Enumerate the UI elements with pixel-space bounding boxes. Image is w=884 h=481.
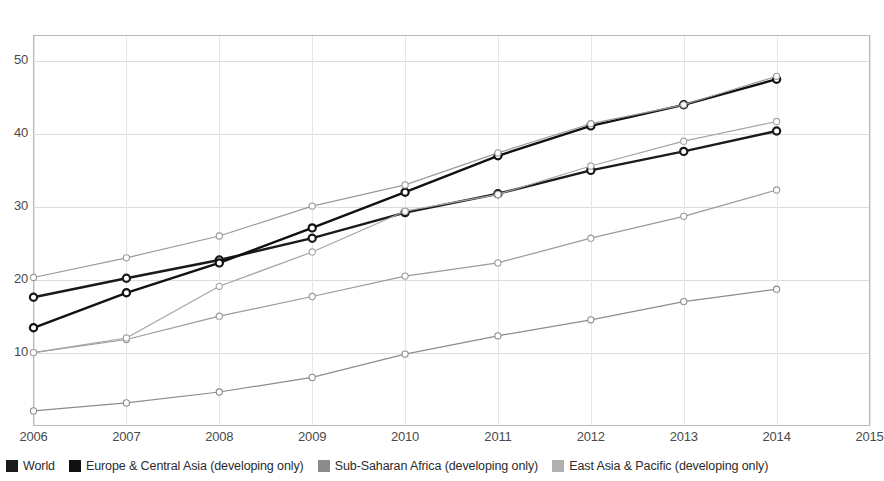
legend-item-europe-central-asia[interactable]: Europe & Central Asia (developing only) <box>69 459 304 473</box>
data-point[interactable] <box>309 293 315 299</box>
x-tick-label-2014: 2014 <box>754 429 800 444</box>
data-point[interactable] <box>30 350 36 356</box>
y-tick-label-40: 40 <box>2 125 28 140</box>
data-point[interactable] <box>495 260 501 266</box>
data-point[interactable] <box>681 102 687 108</box>
plot-frame <box>34 36 870 426</box>
x-tick-label-2010: 2010 <box>382 429 428 444</box>
legend-swatch-east-asia-pacific <box>552 460 564 472</box>
plot-area <box>0 0 884 481</box>
data-point[interactable] <box>495 333 501 339</box>
legend-label-sub-saharan-africa: Sub-Saharan Africa (developing only) <box>335 459 538 473</box>
data-point[interactable] <box>588 163 594 169</box>
data-point[interactable] <box>216 389 222 395</box>
legend-item-sub-saharan-africa[interactable]: Sub-Saharan Africa (developing only) <box>318 459 538 473</box>
x-tick-label-2015: 2015 <box>847 429 884 444</box>
data-point[interactable] <box>680 148 687 155</box>
data-point[interactable] <box>774 73 780 79</box>
data-point[interactable] <box>588 317 594 323</box>
y-tick-label-50: 50 <box>2 52 28 67</box>
legend-swatch-world <box>6 460 18 472</box>
x-tick-label-2009: 2009 <box>289 429 335 444</box>
data-point[interactable] <box>123 255 129 261</box>
data-point[interactable] <box>309 249 315 255</box>
data-point[interactable] <box>123 335 129 341</box>
data-point[interactable] <box>309 374 315 380</box>
data-point[interactable] <box>402 208 408 214</box>
data-point[interactable] <box>495 150 501 156</box>
data-point[interactable] <box>30 294 37 301</box>
data-point[interactable] <box>681 213 687 219</box>
legend-label-europe-central-asia: Europe & Central Asia (developing only) <box>86 459 304 473</box>
x-tick-label-2006: 2006 <box>11 429 57 444</box>
legend-label-east-asia-pacific: East Asia & Pacific (developing only) <box>569 459 768 473</box>
data-point[interactable] <box>681 299 687 305</box>
data-point[interactable] <box>30 324 37 331</box>
data-point[interactable] <box>309 224 316 231</box>
y-tick-label-10: 10 <box>2 344 28 359</box>
legend-label-world: World <box>23 459 55 473</box>
data-point[interactable] <box>773 127 780 134</box>
data-point[interactable] <box>309 235 316 242</box>
y-tick-label-20: 20 <box>2 271 28 286</box>
data-point[interactable] <box>216 283 222 289</box>
legend-item-world[interactable]: World <box>6 459 55 473</box>
data-point[interactable] <box>123 289 130 296</box>
data-point[interactable] <box>216 259 223 266</box>
x-tick-label-2007: 2007 <box>103 429 149 444</box>
x-tick-label-2008: 2008 <box>196 429 242 444</box>
data-point[interactable] <box>588 235 594 241</box>
data-point[interactable] <box>774 118 780 124</box>
data-point[interactable] <box>681 138 687 144</box>
data-point[interactable] <box>774 187 780 193</box>
data-point[interactable] <box>402 182 408 188</box>
data-point[interactable] <box>402 351 408 357</box>
data-point[interactable] <box>216 233 222 239</box>
x-tick-label-2012: 2012 <box>568 429 614 444</box>
data-point[interactable] <box>123 400 129 406</box>
legend-item-east-asia-pacific[interactable]: East Asia & Pacific (developing only) <box>552 459 768 473</box>
data-point[interactable] <box>402 273 408 279</box>
gridlines <box>34 36 871 426</box>
data-point[interactable] <box>216 313 222 319</box>
legend-swatch-europe-central-asia <box>69 460 81 472</box>
data-point[interactable] <box>402 189 409 196</box>
y-tick-label-30: 30 <box>2 198 28 213</box>
x-tick-label-2011: 2011 <box>475 429 521 444</box>
data-point[interactable] <box>588 121 594 127</box>
x-tick-label-2013: 2013 <box>661 429 707 444</box>
data-point[interactable] <box>309 203 315 209</box>
line-chart: 1020304050 20062007200820092010201120122… <box>0 0 884 481</box>
data-point[interactable] <box>30 408 36 414</box>
data-point[interactable] <box>495 191 501 197</box>
legend-swatch-sub-saharan-africa <box>318 460 330 472</box>
chart-legend: World Europe & Central Asia (developing … <box>6 455 884 477</box>
data-point[interactable] <box>123 275 130 282</box>
data-point[interactable] <box>774 286 780 292</box>
data-point[interactable] <box>30 274 36 280</box>
